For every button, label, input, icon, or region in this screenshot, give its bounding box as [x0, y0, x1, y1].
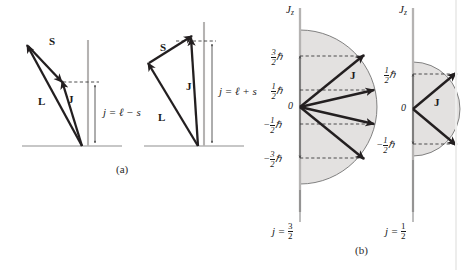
vector-label-J: J	[350, 70, 356, 81]
tick-label-mj-neg1-2: − 1 2 ℏ	[377, 136, 394, 155]
fraction: 3 2	[288, 222, 293, 242]
vector-label-S: S	[49, 36, 55, 47]
j-caption-lhs: j	[272, 225, 275, 237]
j-value-caption-1-2: j = 1 2	[385, 222, 406, 242]
hbar-symbol: ℏ	[275, 153, 281, 164]
panel-b-j12-group	[413, 0, 460, 270]
equation-lhs: j	[219, 85, 222, 97]
tick-label-origin: 0	[288, 101, 293, 111]
tick-label-mj-neg1-2: − 1 2 ℏ	[264, 116, 281, 135]
equation-ell: ℓ	[119, 106, 124, 118]
panel-a-caption: (a)	[116, 164, 128, 175]
vector-label-S: S	[160, 42, 166, 53]
vector-label-J: J	[434, 97, 440, 108]
axis-label-subscript: z	[291, 8, 294, 17]
vector-L-arrow	[148, 63, 198, 146]
equation-operator: −	[126, 106, 133, 118]
j-caption-equals: =	[278, 225, 285, 237]
fraction: 1 2	[401, 222, 406, 242]
vector-J-arrow	[191, 38, 198, 146]
axis-label-subscript: z	[404, 8, 407, 17]
equation-j-plus-s: j = ℓ + s	[219, 86, 257, 97]
equation-j-minus-s: j = ℓ − s	[103, 107, 141, 118]
semicircle-shade	[300, 30, 377, 184]
tick-label-mj-3-2: 3 2 ℏ	[271, 48, 282, 67]
axis-label-jz: Jz	[286, 4, 294, 16]
j-value-caption-3-2: j = 3 2	[272, 222, 293, 242]
tick-label-mj-neg3-2: − 3 2 ℏ	[264, 150, 281, 169]
hbar-symbol: ℏ	[276, 85, 282, 96]
vector-label-J: J	[186, 81, 192, 92]
vector-label-L: L	[158, 112, 165, 123]
equation-lhs: j	[103, 106, 106, 118]
hbar-symbol: ℏ	[276, 51, 282, 62]
equation-s: s	[137, 106, 141, 118]
equation-ell: ℓ	[235, 85, 240, 97]
hbar-symbol: ℏ	[389, 69, 395, 80]
tick-label-mj-1-2: 1 2 ℏ	[271, 82, 282, 101]
hbar-symbol: ℏ	[388, 139, 394, 150]
equation-s: s	[253, 85, 257, 97]
vector-S-arrow	[149, 36, 192, 63]
panel-b-j32-group	[300, 8, 377, 222]
equation-operator: +	[242, 85, 249, 97]
panel-a-parallel-group	[144, 22, 244, 146]
axis-label-jz: Jz	[399, 4, 407, 16]
figure-container: S L J j = ℓ − s S L J j = ℓ + s (a) Jz 3…	[0, 0, 471, 270]
j-caption-lhs: j	[385, 225, 388, 237]
tick-label-mj-1-2: 1 2 ℏ	[384, 66, 395, 85]
vector-label-L: L	[38, 96, 45, 107]
fraction-denominator: 2	[288, 232, 293, 241]
tick-label-origin: 0	[401, 103, 406, 113]
hbar-symbol: ℏ	[275, 119, 281, 130]
equation-equals: =	[225, 85, 232, 97]
j-caption-equals: =	[391, 225, 398, 237]
vector-label-J: J	[68, 94, 74, 105]
fraction-denominator: 2	[401, 232, 406, 241]
panel-b-caption: (b)	[355, 245, 368, 256]
equation-equals: =	[109, 106, 116, 118]
